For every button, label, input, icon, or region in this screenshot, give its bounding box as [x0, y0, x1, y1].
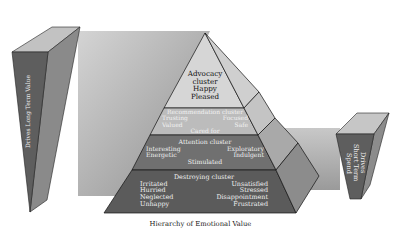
right-wedge-line: Drives — [359, 138, 366, 188]
tier-item: Valued — [162, 122, 183, 128]
tier-item: Unhappy — [140, 201, 169, 208]
left-wedge-label: Drives Long Term Value — [24, 64, 31, 159]
tier-item: Stimulated — [146, 159, 264, 166]
tier-item: Safe — [235, 122, 248, 128]
advocacy-cluster-label: Advocacy cluster Happy Pleased — [176, 70, 234, 100]
tier-item: Cared for — [162, 128, 248, 134]
recommendation-cluster-label: Recommendation cluster TrustingFocused V… — [162, 109, 248, 134]
tier-line: Pleased — [176, 93, 234, 101]
diagram-caption: Hierarchy of Emotional Value — [0, 220, 401, 228]
tier-item: Frustrated — [233, 201, 268, 208]
right-wedge-label: Drives Short Term Spend — [345, 138, 366, 188]
right-wedge-line: Spend — [345, 138, 352, 188]
right-wedge-line: Short Term — [352, 138, 359, 188]
tier-item: Indulgent — [234, 152, 264, 159]
attention-cluster-label: Attention cluster InterestingExploratory… — [146, 139, 264, 165]
destroying-cluster-label: Destroying cluster IrritatedUnsatisfied … — [140, 174, 268, 208]
tier-item: Energetic — [146, 152, 177, 159]
